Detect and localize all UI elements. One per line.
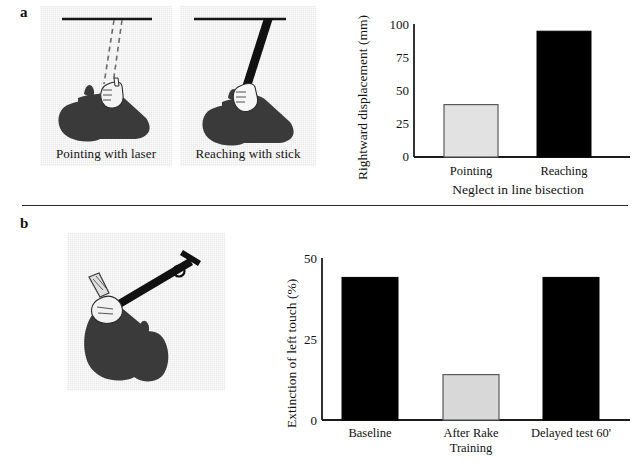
y-tick-label: 0 (403, 149, 410, 164)
y-tick-label: 75 (396, 50, 409, 65)
illustration-caption: Pointing with laser (40, 146, 172, 162)
x-tick-label-reaching: Reaching (540, 164, 588, 178)
illustration-pointing-with-laser: Pointing with laser (40, 6, 172, 166)
chart-extinction-left-touch: Extinction of left touch (%) 50 25 0 Bas… (280, 246, 634, 475)
panel-label-a: a (20, 4, 28, 21)
chart-neglect-line-bisection: Rightward displacement (mm) 100 75 50 25… (352, 2, 634, 202)
y-tick-label: 25 (396, 116, 409, 131)
y-axis-title: Rightward displacement (mm) (355, 15, 370, 180)
bar-after-rake-training (443, 375, 499, 420)
y-tick-label: 50 (304, 251, 317, 266)
bar-baseline (342, 277, 398, 420)
figure-root: a Pointing with laser (0, 0, 634, 475)
bar-delayed-test (543, 277, 599, 420)
x-tick-label-after-rake-line2: Training (450, 441, 493, 455)
y-tick-label: 25 (304, 332, 317, 347)
x-axis-title: Neglect in line bisection (452, 182, 584, 197)
y-axis-title: Extinction of left touch (%) (284, 279, 299, 428)
x-tick-label-baseline: Baseline (348, 426, 391, 440)
bar-reaching (537, 31, 591, 157)
x-tick-label-pointing: Pointing (450, 164, 493, 178)
panel-divider (22, 205, 628, 206)
y-tick-label: 50 (396, 83, 409, 98)
panel-label-b: b (20, 215, 28, 232)
x-tick-label-after-rake-line1: After Rake (443, 426, 499, 440)
x-tick-label-delayed-test: Delayed test 60' (531, 426, 611, 440)
y-tick-label: 0 (311, 413, 318, 428)
illustration-hand-holding-rake (67, 233, 225, 391)
illustration-reaching-with-stick: Reaching with stick (180, 6, 316, 166)
bar-pointing (444, 105, 498, 157)
y-tick-label: 100 (390, 17, 410, 32)
illustration-caption: Reaching with stick (180, 146, 316, 162)
